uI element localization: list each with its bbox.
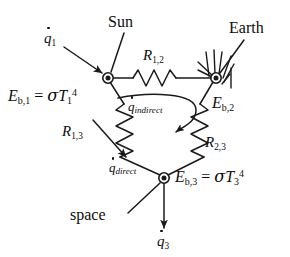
node-3-symbol	[159, 173, 169, 183]
eb3-sigma: σ	[214, 167, 225, 186]
eb1-t-sup: 4	[72, 87, 77, 98]
eb1-t-symbol: T	[58, 87, 67, 104]
q3-sub: 3	[165, 241, 170, 251]
sun-callout-label: Sun	[108, 14, 133, 30]
node-1-symbol	[103, 73, 113, 83]
eb3-t-sup: 4	[239, 168, 244, 179]
q1-arrow	[64, 47, 102, 73]
flux-q1-label: q1	[44, 31, 56, 48]
r12-symbol: R	[143, 47, 152, 63]
r13-symbol: R	[62, 123, 71, 139]
q-direct-symbol: q	[109, 161, 116, 174]
flux-q-direct-label: qdirect	[109, 161, 136, 176]
q1-symbol: q	[44, 31, 52, 46]
resistor-r13-label: R1,3	[62, 124, 83, 141]
eb2-e-symbol: E	[212, 94, 222, 111]
flux-q3-label: q3	[157, 234, 169, 251]
node-3-emissive-power-label: Eb,3 = σT34	[175, 169, 244, 187]
eb3-e-symbol: E	[175, 168, 185, 185]
r23-sub: 2,3	[214, 142, 226, 152]
eb1-sub: b,1	[18, 95, 30, 106]
q-indirect-sub: indirect	[135, 105, 163, 115]
space-callout-label: space	[70, 207, 106, 223]
q-direct-sub: direct	[116, 166, 137, 176]
eb1-e-symbol: E	[8, 87, 18, 104]
r12-sub: 1,2	[152, 55, 164, 65]
eb1-equals: =	[34, 87, 43, 104]
q1-sub: 1	[52, 38, 57, 48]
q3-symbol: q	[157, 234, 165, 249]
node-2-emissive-power-label: Eb,2	[212, 95, 234, 113]
q-direct-arrow	[93, 120, 126, 157]
node-1-emissive-power-label: Eb,1 = σT14	[8, 88, 77, 106]
eb1-sigma: σ	[47, 86, 58, 105]
sun-leader-line	[111, 33, 124, 72]
eb3-t-symbol: T	[225, 168, 234, 185]
space-leader-line	[128, 183, 160, 213]
flux-q-indirect-label: qindirect	[128, 100, 162, 115]
resistor-r12-label: R1,2	[143, 48, 164, 65]
eb2-sub: b,2	[222, 102, 234, 113]
r13-sub: 1,3	[71, 131, 83, 141]
resistor-r12-path	[112, 70, 212, 86]
node-2-symbol	[211, 73, 221, 83]
thermal-network-figure: Sun Earth space q1 Eb,1 = σT14 R1,2 Eb,2…	[0, 0, 290, 257]
q-indirect-symbol: q	[128, 100, 135, 113]
resistor-r23-label: R2,3	[205, 135, 226, 152]
eb3-sub: b,3	[185, 176, 197, 187]
r23-symbol: R	[205, 134, 214, 150]
eb3-equals: =	[201, 168, 210, 185]
earth-callout-label: Earth	[229, 20, 264, 36]
